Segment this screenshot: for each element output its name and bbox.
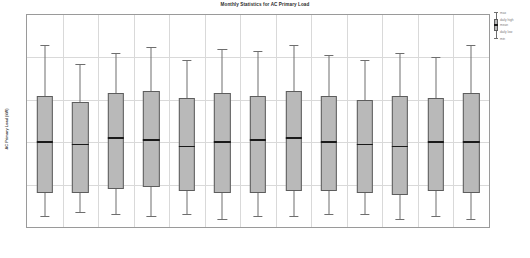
boxplot-min-cap <box>324 214 333 215</box>
boxplot-jan <box>27 15 63 227</box>
boxplot-lower-whisker <box>186 191 187 214</box>
boxplot-mean-line <box>72 144 88 146</box>
boxplot-mean-line <box>356 144 372 146</box>
legend-lower-whisker <box>496 31 497 38</box>
boxplot-lower-whisker <box>222 193 223 218</box>
boxplot-feb <box>63 15 99 227</box>
chart-title: Monthly Statistics for AC Primary Load <box>0 2 530 7</box>
boxplot-min-cap <box>182 214 191 215</box>
boxplot-upper-whisker <box>400 53 401 95</box>
boxplot-dec <box>418 15 454 227</box>
boxplot-mean-line <box>463 141 479 143</box>
boxplot-lower-whisker <box>400 195 401 218</box>
boxplot-mean-line <box>108 137 124 139</box>
legend-upper-whisker <box>496 12 497 19</box>
boxplot-lower-whisker <box>435 191 436 216</box>
boxplot-lower-whisker <box>364 193 365 214</box>
boxplot-min-cap <box>76 212 85 213</box>
boxplot-box <box>72 102 88 193</box>
boxplot-box <box>250 96 266 194</box>
boxplot-mean-line <box>37 141 53 143</box>
boxplot-mar <box>98 15 134 227</box>
boxplot-box <box>108 93 124 188</box>
legend-label-daily-high: daily high <box>500 18 513 22</box>
boxplot-min-cap <box>111 214 120 215</box>
boxplot-upper-whisker <box>44 45 45 96</box>
legend-mean-line <box>494 24 498 25</box>
boxplot-box <box>356 100 372 193</box>
boxplot-nov <box>382 15 418 227</box>
boxplot-box <box>214 93 230 193</box>
boxplot-box <box>321 96 337 191</box>
boxplot-box <box>37 96 53 194</box>
boxplot-upper-whisker <box>151 47 152 92</box>
boxplot-upper-whisker <box>115 53 116 93</box>
boxplot-min-cap <box>40 216 49 217</box>
legend-boxplot-glyph <box>494 12 498 38</box>
boxplot-min-cap <box>467 219 476 220</box>
boxplot-jul <box>240 15 276 227</box>
boxplot-lower-whisker <box>115 189 116 214</box>
boxplot-lower-whisker <box>471 193 472 218</box>
boxplot-min-cap <box>253 216 262 217</box>
boxplot-upper-whisker <box>257 51 258 96</box>
boxplot-upper-whisker <box>293 45 294 92</box>
boxplot-mean-line <box>285 137 301 139</box>
boxplot-upper-whisker <box>186 60 187 98</box>
legend-label-max: max <box>500 11 506 15</box>
boxplot-upper-whisker <box>435 57 436 97</box>
boxplot-min-cap <box>147 216 156 217</box>
boxplot-lower-whisker <box>257 193 258 216</box>
boxplot-box <box>179 98 195 191</box>
boxplot-upper-whisker <box>471 45 472 94</box>
boxplot-upper-whisker <box>329 55 330 95</box>
boxplot-box <box>285 91 301 191</box>
boxplot-min-cap <box>218 219 227 220</box>
plot-inner: 0246810JanFebMarAprMayJunJulAugSepOctNov… <box>27 15 489 227</box>
boxplot-upper-whisker <box>80 64 81 102</box>
boxplot-mean-line <box>179 146 195 148</box>
boxplot-min-cap <box>431 216 440 217</box>
boxplot-mean-line <box>428 141 444 143</box>
boxplot-lower-whisker <box>293 191 294 216</box>
legend-min-cap <box>494 38 498 39</box>
legend-label-mean: mean <box>500 23 508 27</box>
boxplot-lower-whisker <box>329 191 330 214</box>
y-axis-label: AC Primary Load (kW) <box>4 108 9 149</box>
boxplot-upper-whisker <box>222 49 223 94</box>
boxplot-lower-whisker <box>44 193 45 216</box>
boxplot-min-cap <box>396 219 405 220</box>
boxplot-min-cap <box>289 216 298 217</box>
legend-label-min: min <box>500 37 505 41</box>
boxplot-sep <box>311 15 347 227</box>
boxplot-box <box>463 93 479 193</box>
boxplot-mean-line <box>321 141 337 143</box>
plot-area: 0246810JanFebMarAprMayJunJulAugSepOctNov… <box>26 14 490 228</box>
boxplot-lower-whisker <box>151 187 152 217</box>
boxplot-oct <box>347 15 383 227</box>
boxplot-jun <box>205 15 241 227</box>
chart-canvas: Monthly Statistics for AC Primary Load A… <box>0 0 530 258</box>
boxplot-aug <box>276 15 312 227</box>
boxplot-lower-whisker <box>80 193 81 212</box>
boxplot-mean-line <box>250 139 266 141</box>
boxplot-mean-line <box>392 146 408 148</box>
boxplot-upper-whisker <box>364 60 365 100</box>
boxplot-mean-line <box>143 139 159 141</box>
boxplot-apr <box>134 15 170 227</box>
legend-label-daily-low: daily low <box>500 30 512 34</box>
boxplot-ann <box>453 15 489 227</box>
boxplot-mean-line <box>214 141 230 143</box>
boxplot-may <box>169 15 205 227</box>
boxplot-box <box>428 98 444 191</box>
boxplot-min-cap <box>360 214 369 215</box>
